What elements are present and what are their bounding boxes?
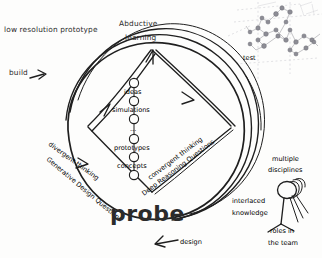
node-circle [129, 114, 138, 123]
ladder-label-prototypes: prototypes [114, 144, 150, 152]
label-build: build [9, 68, 28, 77]
multi-headed-person-icon [268, 178, 308, 232]
diagram-canvas: low resolution prototype build Abductive… [0, 0, 322, 258]
build-arrow [30, 70, 46, 79]
label-multiple-disciplines-2: disciplines [268, 166, 303, 174]
label-test: test [243, 54, 256, 62]
label-abductive-learning-2: learning [125, 33, 157, 42]
node-circle [129, 96, 138, 105]
molecule-network-icon [246, 2, 320, 56]
node-circle [129, 170, 138, 179]
ladder-label-concepts: concepts [117, 162, 147, 170]
ladder-label-ideas: ideas [124, 88, 142, 96]
label-low-resolution-prototype: low resolution prototype [4, 25, 98, 34]
outer-circle-arcs [66, 24, 265, 220]
arrowhead-icon [182, 92, 194, 104]
label-interlaced-knowledge-2: knowledge [232, 209, 268, 217]
node-circle [129, 134, 138, 143]
ladder-label-ellipsis: ... [130, 125, 136, 133]
node-circle [129, 78, 138, 87]
ladder-label-simulations: simulations [112, 106, 150, 114]
node-circle [129, 152, 138, 161]
design-arrow [155, 236, 178, 247]
label-roles-in-the-team-2: the team [268, 239, 298, 247]
label-design: design [180, 238, 202, 246]
label-probe: probe [110, 201, 185, 226]
label-deep-reasoning-questions: Deep Reasoning Questions [140, 137, 216, 197]
